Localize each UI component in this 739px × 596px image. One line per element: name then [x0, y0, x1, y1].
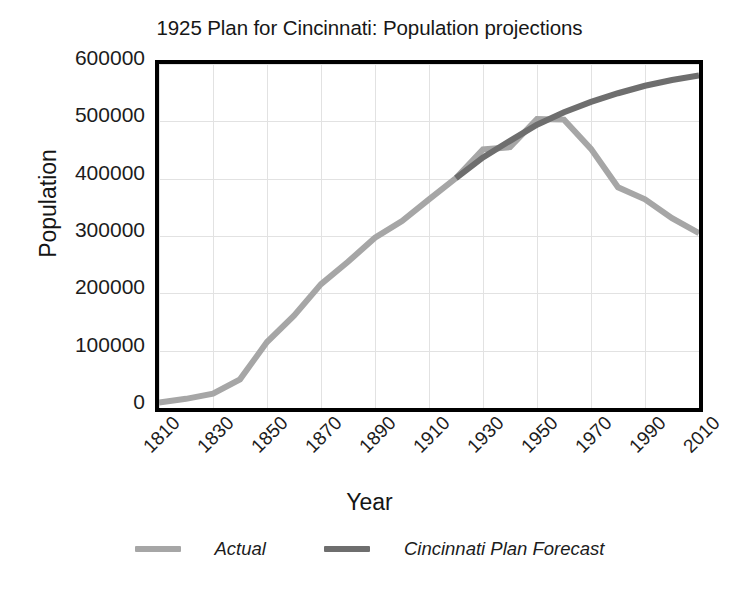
y-tick-label: 0	[5, 390, 145, 414]
series-line-actual	[159, 119, 699, 402]
plot-inner	[159, 64, 699, 408]
y-tick-label: 500000	[5, 103, 145, 127]
series-lines	[159, 64, 699, 408]
legend-swatch	[135, 546, 181, 552]
y-axis-title: Population	[35, 74, 62, 334]
legend-item[interactable]: Cincinnati Plan Forecast	[324, 538, 605, 560]
y-tick-label: 600000	[5, 46, 145, 70]
y-tick-label: 300000	[5, 218, 145, 242]
legend-item[interactable]: Actual	[135, 538, 266, 560]
plot-area	[155, 60, 703, 412]
series-line-cincinnati-plan-forecast	[456, 75, 699, 178]
y-tick-label: 100000	[5, 333, 145, 357]
y-tick-label: 200000	[5, 275, 145, 299]
y-tick-label: 400000	[5, 161, 145, 185]
chart-legend: ActualCincinnati Plan Forecast	[0, 538, 739, 560]
chart-container: 1925 Plan for Cincinnati: Population pro…	[0, 0, 739, 596]
x-axis-title: Year	[0, 489, 739, 516]
legend-swatch	[324, 546, 370, 552]
legend-label: Actual	[215, 538, 266, 560]
chart-title: 1925 Plan for Cincinnati: Population pro…	[0, 16, 739, 40]
legend-label: Cincinnati Plan Forecast	[404, 538, 605, 560]
x-axis-tick-labels: 1810183018501870189019101930195019701990…	[155, 412, 695, 482]
y-axis-tick-labels: 0100000200000300000400000500000600000	[5, 60, 145, 404]
